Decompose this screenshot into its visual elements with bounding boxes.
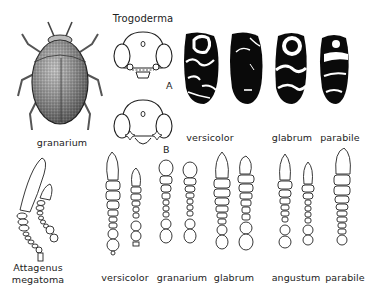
illustration-plate: granarium Trogoderma A B (0, 0, 377, 296)
antenna-label-megatoma: megatoma (12, 274, 64, 285)
beetle-label: granarium (37, 137, 87, 148)
plate-title: Trogoderma (113, 13, 173, 24)
antenna-label-attagenus: Attagenus (13, 262, 62, 273)
antenna-versicolor (106, 152, 141, 255)
elytron-versicolor-1 (184, 32, 219, 104)
antenna-label-granarium: granarium (157, 272, 207, 283)
elytra-patterns (180, 30, 370, 106)
beetle-granarium-drawing (10, 18, 110, 136)
head-diagram-a (112, 28, 174, 86)
antenna-label-glabrum: glabrum (214, 272, 254, 283)
elytron-label-glabrum: glabrum (272, 132, 312, 143)
antenna-label-versicolor: versicolor (101, 272, 148, 283)
antennae-drawings (0, 148, 377, 270)
elytron-label-parabile: parabile (320, 132, 360, 143)
antenna-glabrum (214, 152, 254, 250)
antenna-angustum (278, 154, 314, 248)
antenna-granarium (159, 160, 197, 243)
antenna-label-parabile: parabile (325, 272, 365, 283)
antenna-parabile (334, 148, 350, 245)
elytron-parabile (320, 35, 349, 104)
antenna-label-angustum: angustum (272, 272, 321, 283)
elytron-glabrum (275, 33, 306, 104)
antenna-attagenus-megatoma (17, 158, 58, 261)
elytron-versicolor-2 (230, 32, 263, 104)
elytron-label-versicolor: versicolor (186, 132, 233, 143)
head-a-label: A (166, 80, 173, 91)
